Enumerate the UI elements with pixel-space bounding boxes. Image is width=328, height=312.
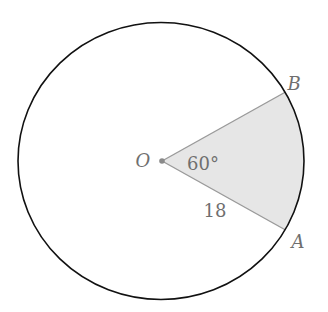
circle-sector-diagram: O B A 60° 18 xyxy=(0,0,328,312)
radius-length-label: 18 xyxy=(204,200,227,221)
center-point-O xyxy=(159,158,165,164)
label-A: A xyxy=(290,231,305,252)
label-B: B xyxy=(286,73,300,94)
label-O: O xyxy=(136,150,151,171)
angle-label: 60° xyxy=(187,153,219,174)
shaded-sector xyxy=(162,92,304,230)
